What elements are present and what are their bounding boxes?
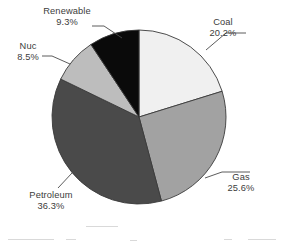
pie-label-renewable: Renewable 9.3%: [24, 6, 110, 29]
pie-label-coal: Coal 20.2%: [192, 17, 254, 40]
scan-artifact: [130, 240, 137, 241]
scan-artifact: [66, 239, 76, 240]
pie-label-petroleum: Petroleum 36.3%: [14, 190, 88, 213]
pie-label-petroleum-name: Petroleum: [14, 190, 88, 201]
scan-artifact: [8, 239, 54, 240]
scan-artifact: [224, 239, 232, 240]
pie-label-gas-name: Gas: [210, 172, 272, 183]
scan-artifact: [86, 226, 118, 227]
pie-label-nuc: Nuc 8.5%: [6, 41, 50, 64]
pie-label-nuc-name: Nuc: [6, 41, 50, 52]
pie-label-renewable-value: 9.3%: [24, 17, 110, 28]
pie-chart-figure: Coal 20.2% Gas 25.6% Petroleum 36.3% Nuc…: [0, 0, 286, 243]
pie-label-coal-name: Coal: [192, 17, 254, 28]
pie-slices-group: [52, 30, 226, 204]
pie-label-gas: Gas 25.6%: [210, 172, 272, 195]
pie-label-renewable-name: Renewable: [24, 6, 110, 17]
pie-label-coal-value: 20.2%: [192, 28, 254, 39]
scan-artifact: [248, 239, 276, 240]
pie-label-gas-value: 25.6%: [210, 183, 272, 194]
pie-label-nuc-value: 8.5%: [6, 52, 50, 63]
pie-label-petroleum-value: 36.3%: [14, 201, 88, 212]
leader-line-petroleum: [58, 173, 72, 188]
